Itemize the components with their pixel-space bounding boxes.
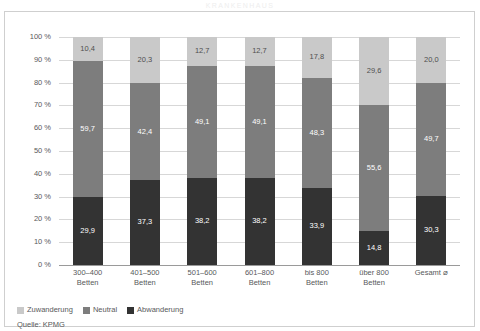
legend-label: Neutral — [93, 306, 117, 314]
bar-stack[interactable]: 38,249,112,7 — [187, 37, 217, 265]
x-axis-label-line2: Betten — [339, 278, 409, 288]
bar-value-label: 55,6 — [367, 164, 382, 172]
bar-segment-neutral[interactable]: 48,3 — [302, 78, 332, 188]
cut-off-title: KRANKENHAUS — [0, 0, 480, 9]
legend-label: Abwanderung — [137, 306, 183, 314]
bar-value-label: 37,3 — [138, 218, 153, 226]
bar-value-label: 14,8 — [367, 244, 382, 252]
bar-value-label: 30,3 — [424, 226, 439, 234]
legend-swatch-icon — [17, 307, 24, 314]
bar-value-label: 49,7 — [424, 135, 439, 143]
axis-baseline — [59, 265, 460, 266]
bar-segment-abwanderung[interactable]: 38,2 — [245, 178, 275, 265]
y-tick-label: 0 % — [5, 261, 51, 269]
legend-label: Zuwanderung — [27, 306, 73, 314]
y-tick-label: 40 % — [5, 170, 51, 178]
bar-value-label: 33,9 — [309, 222, 324, 230]
bar-segment-zuwanderung[interactable]: 20,0 — [416, 37, 446, 83]
bar-value-label: 12,7 — [252, 47, 267, 55]
bar-stack[interactable]: 37,342,420,3 — [130, 37, 160, 265]
bar-stack[interactable]: 33,948,317,8 — [302, 37, 332, 265]
y-tick-label: 100 % — [5, 33, 51, 41]
bar-segment-abwanderung[interactable]: 33,9 — [302, 188, 332, 265]
x-axis-label-line1: 501–600 — [188, 268, 217, 277]
x-axis-label-line1: über 800 — [359, 268, 389, 277]
bar-value-label: 10,4 — [80, 45, 95, 53]
bar-segment-neutral[interactable]: 55,6 — [359, 105, 389, 232]
x-axis-label-line1: 300–400 — [73, 268, 102, 277]
bar-value-label: 49,1 — [195, 118, 210, 126]
y-tick-label: 90 % — [5, 56, 51, 64]
x-axis-label-line1: 401–500 — [130, 268, 159, 277]
y-tick-label: 80 % — [5, 79, 51, 87]
bar-segment-abwanderung[interactable]: 37,3 — [130, 180, 160, 265]
bar-segment-zuwanderung[interactable]: 20,3 — [130, 37, 160, 83]
bar-segment-neutral[interactable]: 49,1 — [245, 66, 275, 178]
bar-stack[interactable]: 38,249,112,7 — [245, 37, 275, 265]
y-tick-label: 30 % — [5, 193, 51, 201]
y-tick-label: 70 % — [5, 101, 51, 109]
legend-swatch-icon — [83, 307, 90, 314]
plot-area: 29,959,710,437,342,420,338,249,112,738,2… — [59, 37, 460, 265]
chart-page: KRANKENHAUS 0 %10 %20 %30 %40 %50 %60 %7… — [0, 0, 480, 331]
legend-item-zuwanderung[interactable]: Zuwanderung — [17, 306, 73, 314]
bar-value-label: 20,0 — [424, 56, 439, 64]
bar-value-label: 29,9 — [80, 227, 95, 235]
bar-segment-abwanderung[interactable]: 14,8 — [359, 231, 389, 265]
bar-value-label: 20,3 — [138, 56, 153, 64]
bar-segment-abwanderung[interactable]: 38,2 — [187, 178, 217, 265]
bar-value-label: 42,4 — [138, 128, 153, 136]
bar-segment-neutral[interactable]: 49,1 — [187, 66, 217, 178]
bar-segment-zuwanderung[interactable]: 12,7 — [187, 37, 217, 66]
bar-value-label: 48,3 — [309, 129, 324, 137]
legend-item-neutral[interactable]: Neutral — [83, 306, 117, 314]
bar-value-label: 29,6 — [367, 67, 382, 75]
bar-value-label: 12,7 — [195, 47, 210, 55]
bar-value-label: 38,2 — [252, 217, 267, 225]
source-note: Quelle: KPMG — [17, 320, 65, 329]
bar-value-label: 59,7 — [80, 125, 95, 133]
bar-segment-neutral[interactable]: 49,7 — [416, 83, 446, 196]
chart-card: 0 %10 %20 %30 %40 %50 %60 %70 %80 %90 %1… — [4, 11, 475, 327]
x-axis-label-line1: Gesamt ⌀ — [415, 268, 448, 277]
x-axis-labels: 300–400Betten401–500Betten501–600Betten6… — [59, 268, 460, 294]
y-tick-label: 50 % — [5, 147, 51, 155]
y-tick-label: 10 % — [5, 238, 51, 246]
bar-segment-zuwanderung[interactable]: 17,8 — [302, 37, 332, 78]
bar-segment-abwanderung[interactable]: 30,3 — [416, 196, 446, 265]
bar-segment-zuwanderung[interactable]: 29,6 — [359, 37, 389, 104]
bar-value-label: 49,1 — [252, 118, 267, 126]
x-axis-label-line1: bis 800 — [305, 268, 329, 277]
bar-stack[interactable]: 29,959,710,4 — [73, 37, 103, 265]
bar-segment-zuwanderung[interactable]: 10,4 — [73, 37, 103, 61]
x-axis-label: Gesamt ⌀ — [396, 268, 466, 278]
plot-wrapper: 0 %10 %20 %30 %40 %50 %60 %70 %80 %90 %1… — [5, 12, 476, 328]
y-tick-label: 20 % — [5, 215, 51, 223]
legend-swatch-icon — [127, 307, 134, 314]
bar-segment-zuwanderung[interactable]: 12,7 — [245, 37, 275, 66]
bar-stack[interactable]: 14,855,629,6 — [359, 37, 389, 265]
chart-legend: ZuwanderungNeutralAbwanderung — [17, 304, 188, 316]
bar-stack[interactable]: 30,349,720,0 — [416, 37, 446, 265]
legend-item-abwanderung[interactable]: Abwanderung — [127, 306, 183, 314]
bar-segment-neutral[interactable]: 42,4 — [130, 83, 160, 180]
bar-segment-abwanderung[interactable]: 29,9 — [73, 197, 103, 265]
bar-value-label: 38,2 — [195, 217, 210, 225]
y-tick-label: 60 % — [5, 124, 51, 132]
bar-value-label: 17,8 — [309, 53, 324, 61]
bar-segment-neutral[interactable]: 59,7 — [73, 61, 103, 197]
x-axis-label-line1: 601–800 — [245, 268, 274, 277]
